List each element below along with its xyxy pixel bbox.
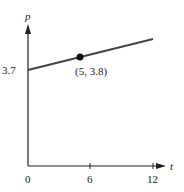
x-tick-label-0: 0 xyxy=(25,173,31,185)
x-tick-label-6: 6 xyxy=(87,173,93,185)
x-tick-label-12: 12 xyxy=(147,173,158,185)
y-intercept-label: 3.7 xyxy=(2,64,16,76)
data-point-label: (5, 3.8) xyxy=(75,65,107,78)
data-point xyxy=(77,54,84,61)
x-axis-arrow-icon xyxy=(156,163,166,169)
x-axis-label: t xyxy=(170,160,174,172)
chart-canvas: p t 0 6 12 3.7 (5, 3.8) xyxy=(0,0,184,192)
y-axis-arrow-icon xyxy=(25,24,31,34)
y-axis-label: p xyxy=(24,10,31,22)
